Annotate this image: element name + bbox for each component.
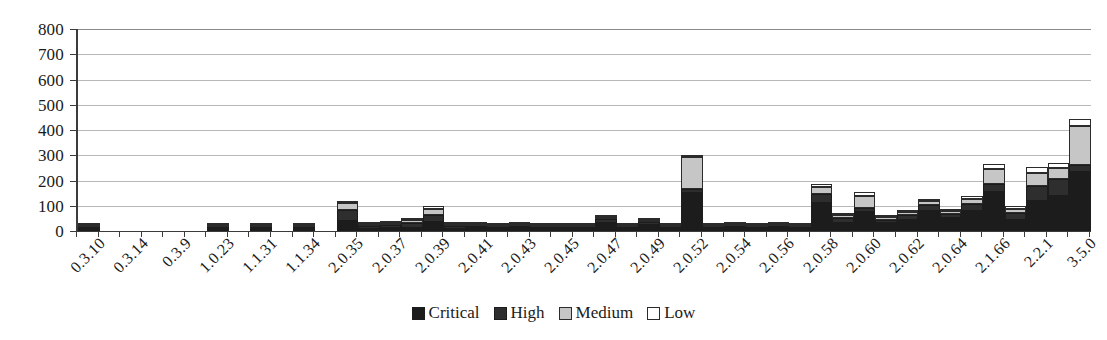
- bar-segment-medium[interactable]: [681, 157, 703, 190]
- bar-slot[interactable]: [509, 29, 531, 231]
- bar-stack[interactable]: [1048, 163, 1070, 231]
- bar-slot[interactable]: [746, 29, 768, 231]
- bar-segment-critical[interactable]: [854, 212, 876, 231]
- bar-slot[interactable]: [617, 29, 639, 231]
- bar-segment-high[interactable]: [423, 215, 445, 222]
- bar-stack[interactable]: [617, 223, 639, 231]
- bar-stack[interactable]: [811, 184, 833, 231]
- bar-stack[interactable]: [660, 223, 682, 231]
- bar-slot[interactable]: [315, 29, 337, 231]
- bar-stack[interactable]: [724, 222, 746, 231]
- bar-stack[interactable]: [854, 192, 876, 231]
- bar-segment-critical[interactable]: [1069, 172, 1091, 231]
- bar-slot[interactable]: [703, 29, 725, 231]
- bar-segment-high[interactable]: [961, 204, 983, 211]
- bar-stack[interactable]: [832, 213, 854, 231]
- bar-segment-critical[interactable]: [1026, 201, 1048, 231]
- legend-item-medium[interactable]: Medium: [559, 303, 634, 323]
- bar-slot[interactable]: [530, 29, 552, 231]
- bar-slot[interactable]: [983, 29, 1005, 231]
- bar-segment-medium[interactable]: [854, 196, 876, 207]
- bar-segment-critical[interactable]: [983, 192, 1005, 231]
- bar-segment-critical[interactable]: [337, 221, 359, 231]
- bar-stack[interactable]: [293, 223, 315, 231]
- bar-slot[interactable]: [466, 29, 488, 231]
- bar-stack[interactable]: [681, 155, 703, 231]
- bar-slot[interactable]: [423, 29, 445, 231]
- bar-segment-high[interactable]: [811, 194, 833, 203]
- bar-stack[interactable]: [789, 223, 811, 231]
- bar-slot[interactable]: [229, 29, 251, 231]
- bar-slot[interactable]: [1026, 29, 1048, 231]
- bar-segment-medium[interactable]: [1069, 126, 1091, 165]
- bar-slot[interactable]: [638, 29, 660, 231]
- bar-segment-critical[interactable]: [595, 223, 617, 231]
- bar-stack[interactable]: [940, 209, 962, 231]
- bar-slot[interactable]: [143, 29, 165, 231]
- bar-slot[interactable]: [78, 29, 100, 231]
- bar-slot[interactable]: [401, 29, 423, 231]
- bar-segment-critical[interactable]: [961, 211, 983, 231]
- bar-slot[interactable]: [854, 29, 876, 231]
- bar-stack[interactable]: [961, 196, 983, 231]
- bar-slot[interactable]: [681, 29, 703, 231]
- bar-segment-high[interactable]: [1026, 186, 1048, 201]
- bar-segment-critical[interactable]: [681, 193, 703, 231]
- bar-stack[interactable]: [466, 222, 488, 231]
- bar-segment-critical[interactable]: [940, 218, 962, 231]
- bar-slot[interactable]: [272, 29, 294, 231]
- bar-segment-critical[interactable]: [832, 223, 854, 231]
- bar-slot[interactable]: [207, 29, 229, 231]
- bar-segment-high[interactable]: [983, 184, 1005, 192]
- bar-slot[interactable]: [574, 29, 596, 231]
- bar-stack[interactable]: [703, 223, 725, 231]
- bar-slot[interactable]: [768, 29, 790, 231]
- bar-stack[interactable]: [638, 218, 660, 231]
- legend-item-low[interactable]: Low: [647, 303, 695, 323]
- bar-stack[interactable]: [509, 222, 531, 231]
- bar-segment-low[interactable]: [1069, 119, 1091, 127]
- bar-stack[interactable]: [897, 210, 919, 231]
- bar-stack[interactable]: [595, 215, 617, 231]
- bar-segment-medium[interactable]: [811, 187, 833, 195]
- bar-slot[interactable]: [293, 29, 315, 231]
- bar-slot[interactable]: [1005, 29, 1027, 231]
- bar-slot[interactable]: [897, 29, 919, 231]
- bar-segment-high[interactable]: [337, 210, 359, 221]
- bar-segment-critical[interactable]: [918, 211, 940, 231]
- bar-slot[interactable]: [380, 29, 402, 231]
- bar-segment-high[interactable]: [1048, 179, 1070, 195]
- bar-stack[interactable]: [1005, 206, 1027, 231]
- bar-segment-medium[interactable]: [1026, 173, 1048, 186]
- bar-slot[interactable]: [1048, 29, 1070, 231]
- bar-stack[interactable]: [423, 206, 445, 231]
- bar-stack[interactable]: [1069, 119, 1091, 231]
- bar-segment-critical[interactable]: [811, 203, 833, 231]
- bar-slot[interactable]: [552, 29, 574, 231]
- bar-stack[interactable]: [875, 215, 897, 231]
- bar-segment-medium[interactable]: [983, 169, 1005, 184]
- bar-slot[interactable]: [961, 29, 983, 231]
- bar-slot[interactable]: [121, 29, 143, 231]
- bar-slot[interactable]: [487, 29, 509, 231]
- bar-stack[interactable]: [552, 223, 574, 231]
- bar-segment-medium[interactable]: [1048, 168, 1070, 179]
- legend-item-high[interactable]: High: [494, 303, 545, 323]
- bar-stack[interactable]: [746, 223, 768, 231]
- bar-stack[interactable]: [768, 222, 790, 231]
- bar-stack[interactable]: [487, 223, 509, 231]
- bar-slot[interactable]: [358, 29, 380, 231]
- bar-stack[interactable]: [574, 223, 596, 231]
- bar-slot[interactable]: [875, 29, 897, 231]
- bar-stack[interactable]: [983, 164, 1005, 231]
- bar-slot[interactable]: [789, 29, 811, 231]
- bar-stack[interactable]: [78, 223, 100, 231]
- bar-slot[interactable]: [164, 29, 186, 231]
- bar-slot[interactable]: [595, 29, 617, 231]
- bar-segment-critical[interactable]: [1005, 220, 1027, 231]
- bar-slot[interactable]: [186, 29, 208, 231]
- bar-slot[interactable]: [811, 29, 833, 231]
- bar-stack[interactable]: [530, 223, 552, 231]
- bar-slot[interactable]: [444, 29, 466, 231]
- bar-segment-critical[interactable]: [1048, 196, 1070, 231]
